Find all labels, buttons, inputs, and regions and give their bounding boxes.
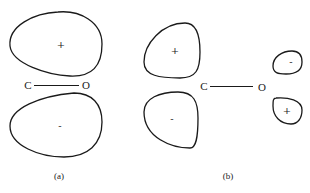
panel-b-oxygen-lower-sign: + [283,105,291,116]
panel-a-oxygen-label: O [82,79,90,91]
orbital-diagram: + C O - (a) + - C O - + (b) [0,0,310,193]
panel-a-upper-sign: + [57,39,65,50]
panel-b-carbon-label: C [200,80,207,92]
panel-b-oxygen-upper-sign: - [289,56,292,67]
panel-b-caption: (b) [223,171,234,181]
panel-a-carbon-label: C [24,79,31,91]
panel-a-lower-sign: - [58,120,61,131]
panel-a: + C O - (a) [10,12,102,181]
panel-b-carbon-upper-sign: + [171,45,179,56]
panel-b-oxygen-upper-lobe [273,51,302,74]
panel-b-carbon-lower-sign: - [170,113,173,124]
panel-a-lower-lobe [10,93,102,157]
panel-a-caption: (a) [54,171,64,181]
panel-b-oxygen-label: O [258,81,266,93]
panel-b: + - C O - + (b) [144,23,302,181]
